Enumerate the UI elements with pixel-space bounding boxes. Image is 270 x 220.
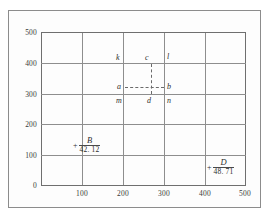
x-tick-200: 200: [117, 189, 129, 198]
y-tick-400: 400: [25, 59, 37, 68]
gridline-x-0: [41, 32, 42, 186]
point-label-l: l: [167, 53, 169, 61]
plot-area: 500 400 300 200 100 0 100 200 300 400 50…: [41, 32, 246, 186]
gridline-y-200: [41, 124, 246, 125]
x-tick-100: 100: [76, 189, 88, 198]
marker-B: + B 42. 12: [73, 136, 100, 154]
gridline-y-300: [41, 94, 246, 95]
gridline-y-0: [41, 185, 246, 186]
gridline-x-200: [123, 32, 124, 186]
marker-D: + D 48. 71: [207, 158, 234, 176]
marker-B-name: B: [79, 136, 101, 145]
plus-cross-icon: +: [73, 142, 78, 150]
marker-B-value: 42. 12: [79, 145, 101, 154]
y-tick-100: 100: [25, 151, 37, 160]
x-tick-400: 400: [199, 189, 211, 198]
point-label-d: d: [147, 97, 151, 105]
x-tick-300: 300: [158, 189, 170, 198]
figure-frame: 500 400 300 200 100 0 100 200 300 400 50…: [8, 10, 261, 208]
y-tick-500: 500: [25, 28, 37, 37]
marker-D-value: 48. 71: [213, 167, 235, 176]
guide-dashed-horizontal: [125, 87, 164, 88]
plus-cross-icon: +: [207, 164, 212, 172]
gridline-y-500: [41, 32, 246, 33]
gridline-x-500: [245, 32, 246, 186]
point-label-n: n: [167, 97, 171, 105]
marker-B-fraction: B 42. 12: [79, 136, 101, 154]
point-label-a: a: [117, 83, 121, 91]
point-label-c: c: [145, 54, 149, 62]
point-label-k: k: [116, 54, 120, 62]
y-tick-0: 0: [33, 181, 37, 190]
gridline-y-400: [41, 63, 246, 64]
y-tick-200: 200: [25, 120, 37, 129]
x-tick-500: 500: [239, 189, 251, 198]
point-label-m: m: [116, 97, 122, 105]
gridline-y-100: [41, 155, 246, 156]
y-tick-300: 300: [25, 90, 37, 99]
gridline-x-300: [164, 32, 165, 186]
gridline-x-100: [82, 32, 83, 186]
marker-D-name: D: [213, 158, 235, 167]
marker-D-fraction: D 48. 71: [213, 158, 235, 176]
gridline-x-400: [205, 32, 206, 186]
guide-dashed-vertical: [151, 64, 152, 94]
point-label-b: b: [167, 83, 171, 91]
